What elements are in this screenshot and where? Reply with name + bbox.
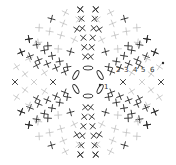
stitch-cross-icon <box>13 63 20 70</box>
stitch-cross-icon <box>114 111 122 119</box>
stitch-cross-icon <box>67 108 75 116</box>
stitch-cross-icon <box>57 125 65 133</box>
stitch-cross-icon <box>89 114 95 120</box>
stitch-cross-icon <box>22 71 28 77</box>
stitch-cross-icon <box>133 132 141 140</box>
stitch-cross-icon <box>40 46 48 54</box>
stitch-cross-icon <box>56 99 64 107</box>
stitch-cross-icon <box>134 117 142 125</box>
chain-oval-icon <box>83 66 93 70</box>
stitch-cross-icon <box>125 96 132 103</box>
stitch-cross-icon <box>156 94 163 101</box>
stitch-cross-icon <box>40 110 48 118</box>
row-number-label: 5 <box>141 67 145 74</box>
stitch-cross-icon <box>44 60 51 67</box>
stitch-cross-icon <box>112 99 120 107</box>
stitch-cross-icon <box>120 52 128 60</box>
stitch-cross-icon <box>90 35 96 41</box>
stitch-cross-icon <box>109 137 116 144</box>
stitch-cross-icon <box>41 88 48 95</box>
chain-oval-icon <box>96 70 104 81</box>
stitch-cross-icon <box>35 56 42 63</box>
stitch-cross-icon <box>124 42 132 50</box>
stitch-cross-icon <box>128 110 136 118</box>
stitch-cross-icon <box>102 48 110 56</box>
stitch-cross-icon <box>73 131 80 138</box>
stitch-cross-icon <box>96 26 103 33</box>
stitch-cross-icon <box>34 117 42 125</box>
stitch-cross-icon <box>33 95 40 102</box>
stitch-cross-icon <box>134 56 141 63</box>
stitch-cross-icon <box>90 123 96 129</box>
row-number-label: 1 <box>104 84 108 91</box>
stitch-cross-icon <box>80 123 86 129</box>
stitch-cross-icon <box>77 6 83 12</box>
stitch-cross-icon <box>13 94 20 101</box>
stitch-cross-icon <box>91 133 97 139</box>
stitch-cross-icon <box>102 108 110 116</box>
stitch-cross-icon <box>114 45 122 53</box>
stitch-cross-icon <box>62 9 69 16</box>
stitch-cross-icon <box>105 63 113 71</box>
stitch-cross-icon <box>33 41 41 49</box>
stitch-cross-icon <box>128 46 136 54</box>
stitch-cross-icon <box>143 121 151 129</box>
stitch-cross-icon <box>31 79 37 85</box>
stitch-cross-icon <box>71 36 78 43</box>
stitch-cross-icon <box>34 39 42 47</box>
stitch-cross-icon <box>116 93 123 100</box>
stitch-cross-icon <box>25 35 33 43</box>
stitch-cross-icon <box>18 108 25 115</box>
stitch-cross-icon <box>158 79 164 85</box>
stitch-cross-icon <box>98 121 105 128</box>
row-number-label: 6 <box>150 67 154 74</box>
stitch-cross-icon <box>135 41 143 49</box>
stitch-cross-icon <box>52 64 59 71</box>
stitch-cross-icon <box>111 31 119 39</box>
stitch-cross-icon <box>33 62 40 69</box>
stitch-cross-icon <box>12 79 18 85</box>
stitch-cross-icon <box>44 114 52 122</box>
stitch-cross-icon <box>143 35 151 43</box>
stitch-cross-icon <box>48 52 56 60</box>
stitch-cross-icon <box>56 57 64 65</box>
stitch-cross-icon <box>98 36 105 43</box>
stitch-cross-icon <box>62 148 69 155</box>
stitch-cross-icon <box>135 115 143 123</box>
chain-oval-icon <box>83 94 93 98</box>
stitch-cross-icon <box>139 79 145 85</box>
row-number-label: 4 <box>133 67 137 74</box>
stitch-cross-icon <box>133 24 141 32</box>
stitch-cross-icon <box>35 24 43 32</box>
stitch-cross-icon <box>63 63 71 71</box>
stitch-cross-icon <box>148 87 154 93</box>
stitch-cross-icon <box>122 27 130 35</box>
stitch-cross-icon <box>91 25 97 31</box>
stitch-cross-icon <box>107 9 114 16</box>
stitch-cross-icon <box>35 132 43 140</box>
row-number-label: 2 <box>116 67 120 74</box>
stitch-cross-icon <box>128 88 135 95</box>
stitch-cross-icon <box>93 6 99 12</box>
stitch-cross-icon <box>142 104 149 111</box>
stitch-cross-icon <box>88 104 94 110</box>
row-number-label: 3 <box>124 67 128 74</box>
stitch-cross-icon <box>73 26 80 33</box>
stitch-cross-icon <box>60 137 67 144</box>
stitch-cross-icon <box>26 52 33 59</box>
stitch-cross-icon <box>121 15 129 23</box>
stitch-cross-icon <box>120 79 126 85</box>
stitch-cross-icon <box>122 129 130 137</box>
stitch-cross-icon <box>26 104 33 111</box>
stitch-cross-icon <box>35 100 42 107</box>
stitch-cross-icon <box>80 35 86 41</box>
stitch-cross-icon <box>88 54 94 60</box>
chain-oval-icon <box>72 70 80 81</box>
stitch-cross-icon <box>124 114 132 122</box>
stitch-cross-icon <box>93 151 99 157</box>
stitch-cross-icon <box>109 20 116 27</box>
stitch-cross-icon <box>79 25 85 31</box>
stitch-cross-icon <box>57 31 65 39</box>
chain-oval-icon <box>72 84 80 95</box>
end-dot-icon <box>162 62 164 64</box>
